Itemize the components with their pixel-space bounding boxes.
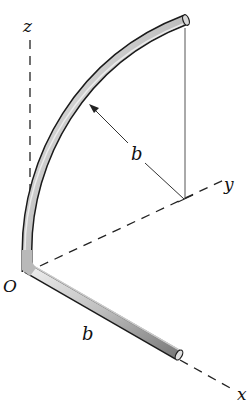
radius-line	[92, 107, 128, 143]
y-axis-label: y	[223, 174, 234, 194]
straight-rod-fill	[27, 268, 178, 355]
y-axis	[40, 179, 226, 266]
x-axis-label: x	[237, 384, 247, 404]
z-axis-label: z	[22, 16, 33, 36]
rod-diagram: z y x O b b	[0, 0, 250, 414]
radius-line	[145, 163, 184, 199]
straight-rod-highlight	[30, 264, 179, 350]
radius-label: b	[131, 143, 143, 164]
x-axis	[180, 360, 232, 389]
arrowhead-icon	[89, 104, 99, 113]
origin-label: O	[3, 276, 17, 296]
rod-length-label: b	[82, 323, 94, 344]
